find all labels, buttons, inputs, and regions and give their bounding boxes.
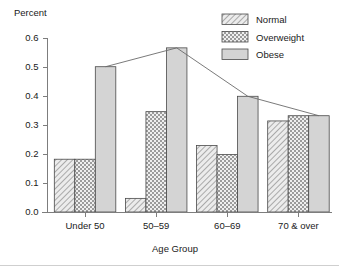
bar-obese-0 (95, 67, 116, 212)
x-tick-label: 70 & over (278, 220, 319, 231)
y-tick-label: 0.1 (25, 177, 38, 188)
bar-normal-1 (125, 198, 146, 212)
legend-swatch-obese (222, 49, 248, 60)
bar-overweight-2 (217, 155, 238, 212)
x-axis: Under 5050–5960–6970 & over (42, 212, 332, 231)
y-axis: 0.00.10.20.30.40.50.6 (25, 32, 47, 217)
chart-plot-area (54, 48, 329, 212)
bar-obese-3 (309, 116, 330, 212)
x-tick-label: Under 50 (66, 220, 105, 231)
legend-label-normal: Normal (256, 14, 287, 25)
x-axis-title: Age Group (152, 243, 198, 254)
y-tick-label: 0.6 (25, 32, 38, 43)
x-axis-ticks: Under 5050–5960–6970 & over (66, 212, 319, 231)
y-tick-label: 0.0 (25, 206, 38, 217)
y-tick-label: 0.5 (25, 61, 38, 72)
bar-overweight-3 (288, 116, 309, 212)
bar-overweight-0 (75, 159, 96, 212)
chart-legend: NormalOverweightObese (222, 14, 304, 60)
bar-chart: 0.00.10.20.30.40.50.6 Under 5050–5960–69… (0, 0, 339, 266)
bar-normal-2 (197, 146, 218, 212)
y-tick-label: 0.2 (25, 148, 38, 159)
legend-swatch-normal (222, 14, 248, 25)
bar-series-group (54, 48, 329, 212)
x-tick-label: 50–59 (143, 220, 169, 231)
chart-container: 0.00.10.20.30.40.50.6 Under 5050–5960–69… (0, 0, 339, 266)
legend-label-overweight: Overweight (256, 32, 304, 43)
legend-label-obese: Obese (256, 49, 284, 60)
y-axis-title: Percent (14, 7, 47, 18)
bar-obese-1 (166, 48, 187, 212)
bar-overweight-1 (146, 112, 167, 212)
legend-swatch-overweight (222, 32, 248, 43)
y-tick-label: 0.3 (25, 119, 38, 130)
obese-trend-line (106, 48, 319, 116)
bar-obese-2 (238, 96, 259, 212)
y-tick-label: 0.4 (25, 90, 38, 101)
bar-normal-0 (54, 159, 74, 212)
y-axis-ticks: 0.00.10.20.30.40.50.6 (25, 32, 47, 217)
bar-normal-3 (268, 121, 289, 212)
x-tick-label: 60–69 (214, 220, 240, 231)
